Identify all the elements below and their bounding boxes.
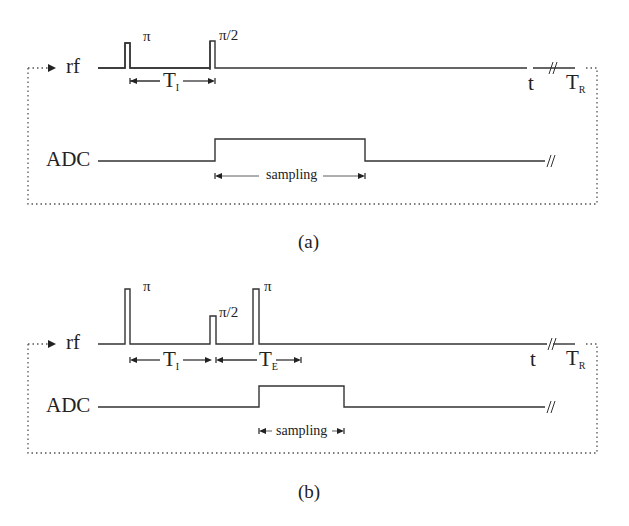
pulse-label-pi-2-b: π (264, 279, 272, 294)
adc-label-b: ADC (46, 395, 90, 416)
interval-ti-b: TI (163, 349, 179, 372)
caption-b: (b) (298, 482, 320, 501)
repeat-loop-a (28, 68, 597, 204)
pulse-label-pi-1-b: π (143, 279, 151, 294)
caption-a: (a) (298, 232, 319, 251)
interval-te-b: TE (259, 349, 278, 372)
sampling-label-b: sampling (276, 424, 327, 438)
time-label-a: t (528, 73, 534, 94)
pulse-label-pi-a: π (143, 29, 151, 44)
pulse-label-pi-half-b: π/2 (219, 305, 238, 320)
rf-label-b: rf (66, 332, 80, 353)
pulse-sequence-diagrams (0, 0, 629, 526)
adc-waveform-b (98, 386, 545, 407)
rf-waveform-b (98, 289, 547, 344)
time-label-b: t (530, 349, 536, 370)
sampling-label-a: sampling (266, 168, 317, 182)
adc-label-a: ADC (46, 149, 90, 170)
tr-label-a: TR (566, 72, 586, 95)
rf-label-a: rf (66, 56, 80, 77)
pulse-label-pi-half-a: π/2 (219, 28, 238, 43)
adc-waveform-a (98, 139, 545, 161)
rf-waveform-a (98, 41, 210, 70)
tr-label-b: TR (566, 348, 586, 371)
interval-ti-a: TI (163, 70, 179, 93)
